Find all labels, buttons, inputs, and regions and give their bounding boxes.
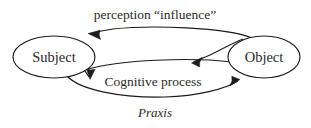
edge-perception-influence-path (90, 27, 252, 38)
edge-perception-influence-arrowhead (88, 30, 101, 39)
edge-cognitive-inbound-arrowhead (192, 57, 203, 67)
node-subject-label: Subject (32, 49, 76, 65)
subject-object-diagram: Subject Object perception “influence” Co… (0, 0, 311, 128)
diagram-canvas: Subject Object perception “influence” Co… (0, 0, 311, 128)
node-object-label: Object (245, 49, 284, 65)
edge-label-praxis: Praxis (137, 105, 172, 120)
edge-praxis-arrowhead (230, 76, 240, 86)
edge-label-cognitive-process: Cognitive process (104, 74, 201, 89)
edge-label-perception-influence: perception “influence” (94, 7, 217, 22)
